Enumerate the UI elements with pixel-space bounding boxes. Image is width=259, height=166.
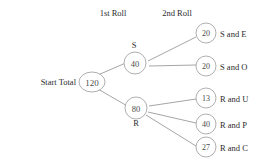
leaf-outcome-label-s-and-e: S and E bbox=[220, 29, 246, 39]
start-total-label: Start Total bbox=[41, 77, 77, 87]
leaf-outcome-label-r-and-p: R and P bbox=[220, 120, 247, 130]
probability-tree-diagram: 1st Roll 2nd Roll Start Total 120 S 40 8… bbox=[0, 0, 259, 166]
branch-node-value-s: 40 bbox=[131, 59, 140, 69]
edge-r-to-leaf-rc bbox=[146, 115, 196, 146]
leaf-node-value-r-and-p: 40 bbox=[202, 120, 210, 129]
leaf-node-value-s-and-o: 20 bbox=[202, 62, 210, 71]
branch-node-value-r: 80 bbox=[132, 104, 141, 114]
edge-s-to-leaf-so bbox=[149, 65, 196, 66]
leaf-outcome-label-s-and-o: S and O bbox=[220, 62, 247, 72]
leaf-node-value-r-and-u: 13 bbox=[202, 94, 210, 103]
column-header-second-roll: 2nd Roll bbox=[162, 8, 192, 18]
edge-s-to-leaf-se bbox=[148, 37, 196, 61]
leaf-outcome-label-r-and-c: R and C bbox=[220, 143, 248, 153]
leaf-outcome-label-r-and-u: R and U bbox=[220, 94, 248, 104]
edge-r-to-leaf-ru bbox=[149, 99, 196, 106]
column-header-first-roll: 1st Roll bbox=[100, 8, 127, 18]
branch-letter-r: R bbox=[133, 118, 139, 128]
leaf-node-value-r-and-c: 27 bbox=[202, 143, 210, 152]
root-node-value: 120 bbox=[85, 78, 99, 88]
edge-r-to-leaf-rp bbox=[148, 112, 196, 123]
branch-letter-s: S bbox=[132, 40, 137, 50]
leaf-node-value-s-and-e: 20 bbox=[202, 29, 210, 38]
